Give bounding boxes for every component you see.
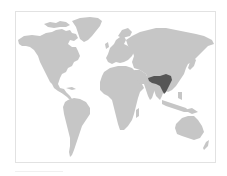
scandinavia [118, 28, 132, 38]
continent-north-america [18, 29, 80, 93]
new-zealand [203, 140, 209, 150]
continent-south-america [63, 98, 90, 157]
british-isles [105, 42, 109, 49]
world-map [0, 0, 227, 176]
map-stage: Highlighted range [0, 0, 227, 176]
caribbean-islands [66, 87, 76, 90]
central-america [58, 88, 72, 100]
continent-australia [175, 116, 204, 140]
arctic-islands [44, 21, 70, 28]
madagascar [136, 108, 139, 118]
footer-divider [15, 171, 63, 172]
philippines [178, 92, 182, 100]
